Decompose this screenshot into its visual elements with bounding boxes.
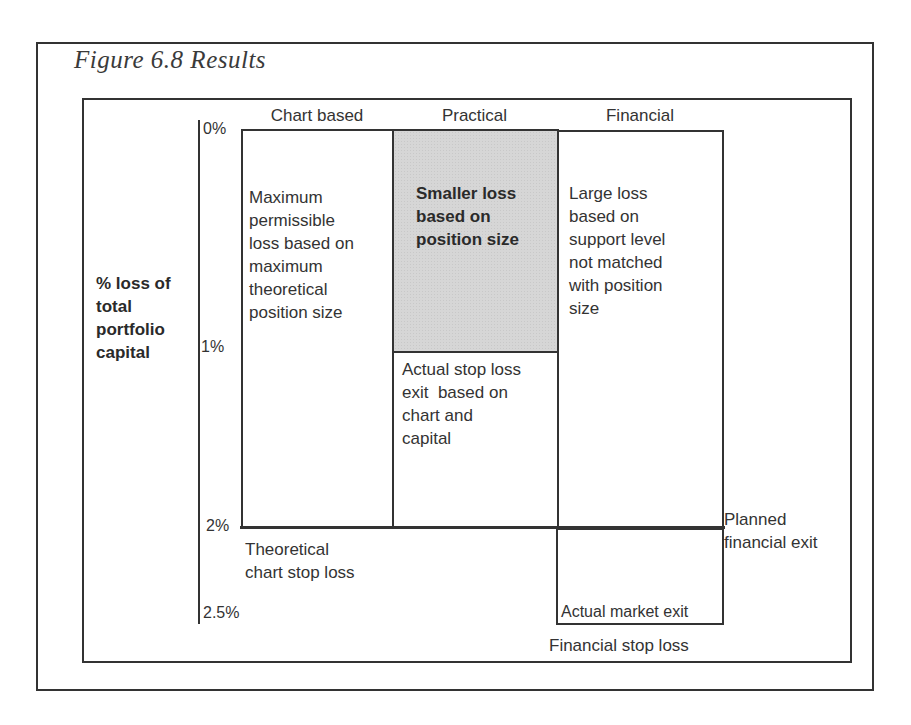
y-axis-label: % loss of total portfolio capital: [96, 272, 171, 364]
text-line: not matched: [569, 251, 665, 274]
y-axis-label-line: capital: [96, 341, 171, 364]
text-line: Smaller loss: [416, 182, 519, 205]
tick-2pct: 2%: [206, 517, 229, 535]
text-line: permissible: [249, 209, 354, 232]
financial-stop-loss-label: Financial stop loss: [549, 634, 689, 657]
text-line: chart stop loss: [245, 561, 355, 584]
text-line: size: [569, 297, 665, 320]
text-line: financial exit: [724, 531, 818, 554]
tick-0pct: 0%: [203, 120, 226, 138]
text-line: based on: [416, 205, 519, 228]
text-line: chart and: [402, 404, 521, 427]
theoretical-chart-stop-loss-label: Theoretical chart stop loss: [245, 538, 355, 584]
two-percent-line: [240, 526, 725, 529]
tick-1pct: 1%: [201, 338, 224, 356]
text-line: Maximum: [249, 186, 354, 209]
tick-2-5pct: 2.5%: [203, 604, 239, 622]
practical-lower-text: Actual stop loss exit based on chart and…: [402, 358, 521, 450]
text-line: position size: [249, 301, 354, 324]
column-header-practical: Practical: [392, 106, 557, 126]
text-line: Planned: [724, 508, 818, 531]
y-axis-line: [198, 120, 200, 624]
column-header-chart-based: Chart based: [242, 106, 392, 126]
column-header-financial: Financial: [557, 106, 723, 126]
practical-shaded-text: Smaller loss based on position size: [416, 182, 519, 251]
text-line: exit based on: [402, 381, 521, 404]
y-axis-label-line: total: [96, 295, 171, 318]
text-line: Large loss: [569, 182, 665, 205]
y-axis-label-line: portfolio: [96, 318, 171, 341]
text-line: Theoretical: [245, 538, 355, 561]
text-line: Actual stop loss: [402, 358, 521, 381]
y-axis-label-line: % loss of: [96, 272, 171, 295]
chart-based-text: Maximum permissible loss based on maximu…: [249, 186, 354, 324]
text-line: with position: [569, 274, 665, 297]
text-line: support level: [569, 228, 665, 251]
figure-title: Figure 6.8 Results: [74, 46, 266, 74]
text-line: capital: [402, 427, 521, 450]
text-line: loss based on: [249, 232, 354, 255]
text-line: theoretical: [249, 278, 354, 301]
actual-market-exit-label: Actual market exit: [561, 600, 688, 623]
text-line: based on: [569, 205, 665, 228]
financial-text: Large loss based on support level not ma…: [569, 182, 665, 320]
text-line: position size: [416, 228, 519, 251]
planned-financial-exit-label: Planned financial exit: [724, 508, 818, 554]
text-line: maximum: [249, 255, 354, 278]
